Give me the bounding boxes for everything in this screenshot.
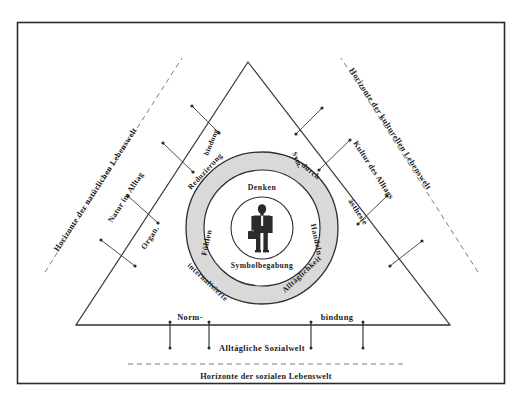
label-organ: Organ. <box>139 224 161 251</box>
connector-upper-right-a <box>294 106 323 135</box>
label-horizon-social: Horizonte der sozialen Lebenswelt <box>200 372 332 381</box>
label-horizon-cultural: Horizonte der kulturellen Lebenswelt <box>347 66 433 191</box>
diagram-page: Horizonte der natürlichen Lebenswelt Hor… <box>0 0 523 404</box>
connector-lower-right <box>388 239 423 267</box>
connector-lower-left <box>99 238 136 267</box>
label-aesthesie: ästhesie <box>346 197 369 226</box>
label-bindung: bindung <box>321 313 354 322</box>
label-symbolbegabung: Symbolbegabung <box>231 261 293 270</box>
connector-mid-left <box>126 194 159 224</box>
lebenswelt-diagram: Horizonte der natürlichen Lebenswelt Hor… <box>0 0 523 404</box>
label-norm: Norm- <box>177 313 203 322</box>
label-natur-im-alltag: Natur im Alltag <box>106 170 145 224</box>
label-denken: Denken <box>248 183 277 192</box>
label-alltaegliche-sozialwelt: Alltägliche Sozialwelt <box>219 344 305 353</box>
label-kultur-des-alltags: Kultur des Alltags <box>351 139 395 201</box>
connector-upper-right-b <box>317 138 351 171</box>
